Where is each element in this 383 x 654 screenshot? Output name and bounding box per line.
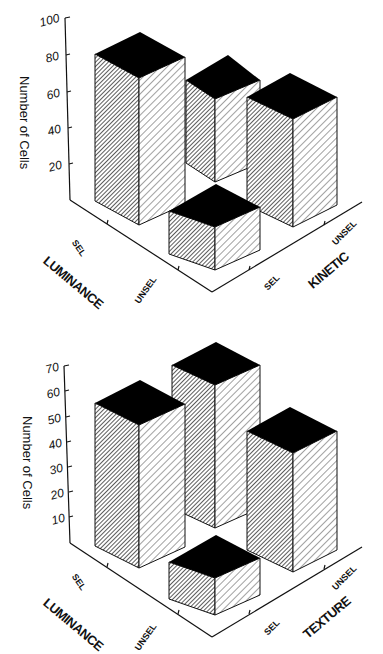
bar-lum-sel-kin-sel [95, 32, 185, 225]
y-axis-label: Number of Cells [20, 416, 35, 509]
chart-luminance-kinetic: 100 80 60 40 20 Number of Cells SEL UNSE… [0, 0, 383, 320]
y-axis-label: Number of Cells [17, 76, 32, 169]
bar-lum-unsel-tex-unsel [247, 407, 337, 572]
chart-luminance-texture: 70 60 50 40 30 20 10 Number of Cells SEL… [0, 330, 383, 650]
bar-lum-unsel-kin-unsel [247, 73, 337, 227]
bar-lum-sel-tex-sel [95, 380, 185, 568]
